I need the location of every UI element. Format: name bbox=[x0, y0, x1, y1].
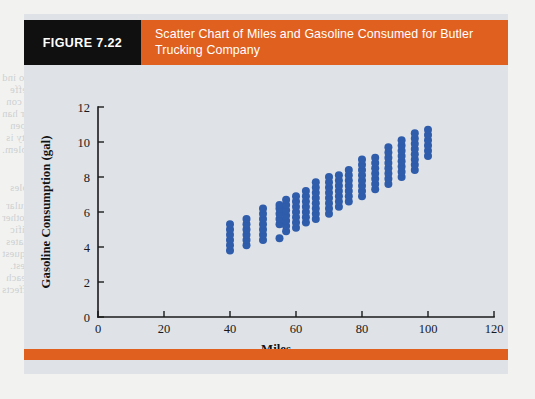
figure-number-tag: FIGURE 7.22 bbox=[24, 20, 141, 65]
data-point bbox=[302, 187, 310, 195]
y-tick-label: 12 bbox=[78, 101, 91, 115]
figure-title: Scatter Chart of Miles and Gasoline Cons… bbox=[155, 27, 498, 58]
x-tick-label: 80 bbox=[356, 322, 369, 336]
data-point bbox=[384, 143, 392, 151]
x-tick-label: 120 bbox=[485, 322, 504, 336]
data-point bbox=[345, 166, 353, 174]
figure-footer-bar bbox=[24, 349, 508, 360]
y-tick-label: 4 bbox=[84, 241, 91, 255]
data-point bbox=[292, 192, 300, 200]
figure-card: FIGURE 7.22 Scatter Chart of Miles and G… bbox=[24, 14, 508, 374]
x-tick-label: 0 bbox=[95, 322, 101, 336]
figure-header: FIGURE 7.22 Scatter Chart of Miles and G… bbox=[24, 20, 508, 65]
data-point bbox=[276, 234, 284, 242]
x-tick-label: 20 bbox=[158, 322, 171, 336]
data-point bbox=[398, 136, 406, 144]
scatter-chart: 020406080100120024681012 Miles Gasoline … bbox=[24, 65, 508, 350]
data-point bbox=[226, 220, 234, 228]
y-tick-label: 6 bbox=[84, 206, 90, 220]
scatter-chart-svg: 020406080100120024681012 Miles Gasoline … bbox=[24, 65, 508, 350]
figure-title-bar: Scatter Chart of Miles and Gasoline Cons… bbox=[141, 20, 508, 65]
x-tick-label: 40 bbox=[224, 322, 237, 336]
data-point bbox=[358, 156, 366, 164]
data-point bbox=[424, 126, 432, 134]
data-point bbox=[312, 178, 320, 186]
x-tick-label: 100 bbox=[419, 322, 438, 336]
y-tick-label: 8 bbox=[84, 171, 90, 185]
y-tick-label: 2 bbox=[84, 276, 90, 290]
data-point bbox=[243, 215, 251, 223]
y-tick-label: 10 bbox=[78, 136, 91, 150]
data-point bbox=[371, 154, 379, 162]
data-point bbox=[335, 171, 343, 179]
data-point bbox=[411, 129, 419, 137]
x-tick-label: 60 bbox=[290, 322, 303, 336]
axis-ticks: 020406080100120024681012 bbox=[78, 101, 504, 337]
data-point-group bbox=[226, 126, 432, 255]
data-point bbox=[282, 196, 290, 204]
y-tick-label: 0 bbox=[84, 311, 90, 325]
data-point bbox=[325, 173, 333, 181]
y-axis-title: Gasoline Consumption (gal) bbox=[39, 136, 53, 289]
data-point bbox=[259, 205, 267, 213]
